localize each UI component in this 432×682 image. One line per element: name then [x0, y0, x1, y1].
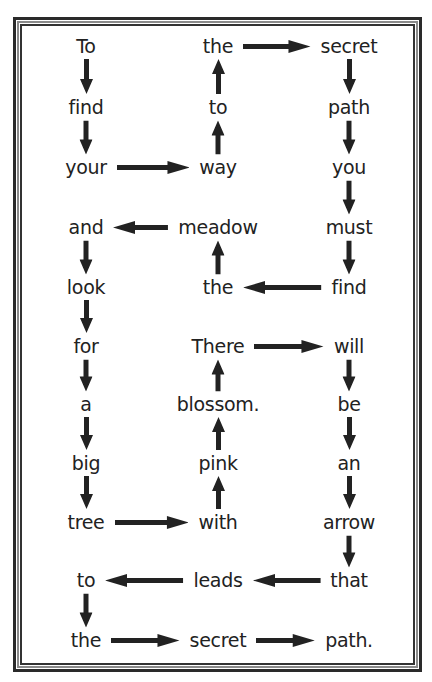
arrow-up-icon: [212, 240, 225, 274]
word-cell: find: [69, 96, 104, 118]
arrow-down-icon: [80, 120, 93, 154]
word-cell: to: [209, 96, 227, 118]
arrow-down-icon: [80, 300, 93, 333]
word-cell: be: [337, 393, 360, 415]
word-cell: the: [71, 629, 101, 651]
word-cell: leads: [193, 569, 242, 591]
arrow-left-icon: [253, 574, 321, 587]
arrow-up-icon: [212, 359, 225, 391]
arrow-down-icon: [80, 359, 93, 391]
arrow-left-icon: [113, 221, 168, 234]
arrow-down-icon: [343, 180, 356, 214]
word-cell: path: [328, 96, 370, 118]
arrow-right-icon: [243, 40, 310, 53]
word-cell: will: [334, 335, 364, 357]
arrow-right-icon: [111, 634, 179, 647]
arrow-down-icon: [343, 535, 356, 567]
word-cell: and: [69, 216, 104, 238]
arrow-down-icon: [80, 417, 93, 450]
arrow-down-icon: [80, 593, 93, 627]
arrow-down-icon: [343, 417, 356, 450]
arrow-left-icon: [243, 281, 321, 294]
arrow-down-icon: [343, 59, 356, 94]
arrow-down-icon: [80, 59, 93, 94]
word-cell: big: [72, 452, 101, 474]
word-cell: an: [337, 452, 360, 474]
word-cell: to: [77, 569, 95, 591]
word-cell: a: [80, 393, 91, 415]
word-cell: you: [332, 156, 366, 178]
arrow-down-icon: [343, 476, 356, 509]
arrow-right-icon: [117, 161, 189, 174]
word-cell: your: [65, 156, 107, 178]
arrow-up-icon: [212, 59, 225, 94]
arrow-left-icon: [105, 574, 183, 587]
arrow-up-icon: [212, 120, 225, 154]
arrow-up-icon: [212, 476, 225, 509]
word-cell: path.: [325, 629, 373, 651]
word-cell: To: [76, 35, 95, 57]
arrow-down-icon: [343, 359, 356, 391]
word-cell: blossom.: [177, 393, 260, 415]
arrow-down-icon: [80, 476, 93, 509]
word-cell: that: [330, 569, 367, 591]
word-cell: the: [203, 276, 233, 298]
word-cell: There: [192, 335, 245, 357]
word-cell: secret: [190, 629, 247, 651]
arrow-down-icon: [343, 240, 356, 274]
word-cell: the: [203, 35, 233, 57]
word-cell: for: [73, 335, 98, 357]
word-cell: arrow: [323, 511, 375, 533]
word-cell: way: [199, 156, 237, 178]
word-cell: find: [332, 276, 367, 298]
arrow-right-icon: [254, 340, 323, 353]
word-cell: tree: [67, 511, 104, 533]
word-cell: meadow: [178, 216, 257, 238]
arrow-right-icon: [256, 634, 315, 647]
arrow-up-icon: [212, 417, 225, 450]
arrow-down-icon: [80, 240, 93, 274]
word-cell: with: [198, 511, 237, 533]
arrow-down-icon: [343, 120, 356, 154]
arrow-right-icon: [115, 516, 189, 529]
word-cell: look: [67, 276, 105, 298]
word-cell: secret: [321, 35, 378, 57]
word-cell: must: [326, 216, 373, 238]
word-cell: pink: [198, 452, 237, 474]
